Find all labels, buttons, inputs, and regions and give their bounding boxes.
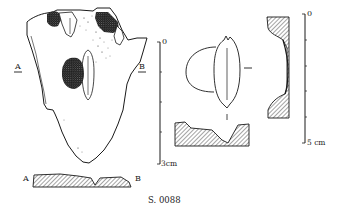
pitted-area-center bbox=[62, 58, 84, 89]
figure-caption: S. 0088 bbox=[148, 196, 181, 205]
scale-right-zero: 0 bbox=[307, 10, 312, 18]
cross-section-ab bbox=[33, 174, 131, 187]
scale-left-end: 3cm bbox=[161, 160, 177, 168]
scale-left-zero: 0 bbox=[162, 38, 167, 46]
section-marker-b: B bbox=[139, 63, 145, 71]
artifact-drawing bbox=[0, 0, 340, 218]
scale-bar-5cm bbox=[302, 14, 307, 143]
scale-right-end: 5 cm bbox=[307, 139, 325, 147]
cross-section-label-a: A bbox=[23, 175, 29, 183]
detail-view bbox=[175, 36, 252, 146]
front-view bbox=[27, 8, 147, 163]
section-marker-a: A bbox=[15, 63, 21, 71]
scale-bar-3cm bbox=[157, 42, 162, 164]
profile-section bbox=[267, 17, 289, 118]
cross-section-label-b: B bbox=[135, 175, 141, 183]
